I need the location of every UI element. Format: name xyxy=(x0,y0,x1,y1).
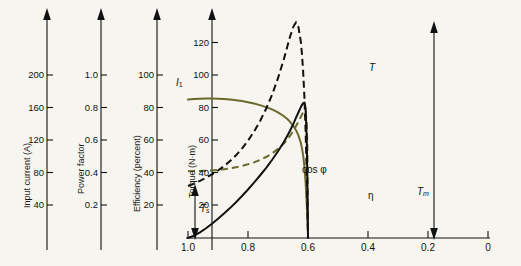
tick-label-efficiency-60: 60 xyxy=(124,134,154,145)
starting-torque-label-sub: s xyxy=(206,207,210,214)
x-tick-label-0-6: 0.6 xyxy=(293,242,323,253)
tick-label-torque-60: 60 xyxy=(179,134,209,145)
chart-background xyxy=(0,0,521,266)
tick-label-power-factor-0-2: 0.2 xyxy=(68,199,98,210)
tick-label-torque-80: 80 xyxy=(179,102,209,113)
starting-torque-label: Ts xyxy=(200,203,210,214)
tick-label-efficiency-20: 20 xyxy=(124,199,154,210)
x-tick-label-0-4: 0.4 xyxy=(353,242,383,253)
figure-root: Input current (A) Power factor Efficienc… xyxy=(0,0,521,266)
tick-label-torque-100: 100 xyxy=(179,69,209,80)
input-current-curve-label: I1 xyxy=(176,77,183,88)
tick-label-power-factor-0-6: 0.6 xyxy=(68,134,98,145)
tick-label-power-factor-0-4: 0.4 xyxy=(68,167,98,178)
tick-label-efficiency-40: 40 xyxy=(124,167,154,178)
power-factor-curve-label: cos φ xyxy=(302,164,327,175)
x-tick-label-0-2: 0.2 xyxy=(413,242,443,253)
tick-label-efficiency-100: 100 xyxy=(124,69,154,80)
tick-label-input-current-120: 120 xyxy=(14,134,44,145)
input-current-curve-label-sub: 1 xyxy=(179,81,183,88)
maximum-torque-label: Tm xyxy=(417,186,429,197)
x-tick-label-0-8: 0.8 xyxy=(233,242,263,253)
tick-label-efficiency-80: 80 xyxy=(124,102,154,113)
chart-canvas xyxy=(0,0,521,266)
x-tick-label-1-0: 1.0 xyxy=(173,242,203,253)
tick-label-torque-120: 120 xyxy=(179,37,209,48)
tick-label-power-factor-0-8: 0.8 xyxy=(68,102,98,113)
tick-label-input-current-40: 40 xyxy=(14,199,44,210)
x-tick-label-0: 0 xyxy=(473,242,503,253)
torque-curve-label: T xyxy=(369,62,375,73)
maximum-torque-label-sub: m xyxy=(423,190,429,197)
tick-label-input-current-200: 200 xyxy=(14,69,44,80)
efficiency-curve-label: η xyxy=(368,190,374,201)
tick-label-input-current-80: 80 xyxy=(14,167,44,178)
tick-label-torque-40: 40 xyxy=(179,167,209,178)
tick-label-input-current-160: 160 xyxy=(14,102,44,113)
tick-label-power-factor-1-0: 1.0 xyxy=(68,69,98,80)
